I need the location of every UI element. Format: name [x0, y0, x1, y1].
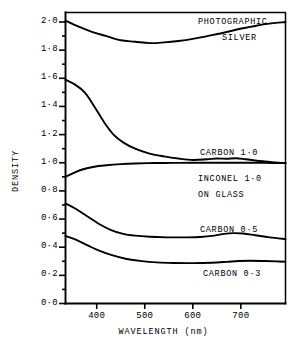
y-tick-label: 0·0: [20, 298, 58, 308]
series-label-carbon-0-3: CARBON 0·3: [203, 269, 261, 279]
x-tick-label: 400: [77, 311, 117, 321]
series-label-carbon-1-0: CARBON 1·0: [200, 148, 258, 158]
y-tick-label: 0·4: [20, 241, 58, 251]
y-axis-title: DENSITY: [11, 150, 21, 192]
y-tick-label: 0·8: [20, 185, 58, 195]
y-tick-label: 1·0: [20, 157, 58, 167]
y-tick-label: 1·8: [20, 44, 58, 54]
curve-carbon-0-3: [66, 236, 286, 263]
chart-figure: 0·00·20·40·60·81·01·21·41·61·82·0 400500…: [0, 0, 299, 349]
series-label-silver: SILVER: [222, 33, 257, 43]
series-label-photographic-silver: PHOTOGRAPHIC: [198, 17, 268, 27]
y-tick-label: 0·2: [20, 269, 58, 279]
y-tick-label: 1·4: [20, 100, 58, 110]
x-tick-label: 500: [125, 311, 165, 321]
y-axis-ticks: [59, 22, 66, 304]
series-label-inconel-1-0: INCONEL 1·0: [198, 174, 262, 184]
x-tick-label: 700: [221, 311, 261, 321]
y-tick-label: 1·2: [20, 129, 58, 139]
x-axis-title: WAVELENGTH (nm): [14, 327, 299, 337]
x-tick-label: 600: [173, 311, 213, 321]
y-tick-label: 2·0: [20, 16, 58, 26]
series-label-carbon-0-5: CARBON 0·5: [200, 225, 258, 235]
series-label-on-glass: ON GLASS: [198, 190, 244, 200]
y-tick-label: 0·6: [20, 213, 58, 223]
y-tick-label: 1·6: [20, 72, 58, 82]
